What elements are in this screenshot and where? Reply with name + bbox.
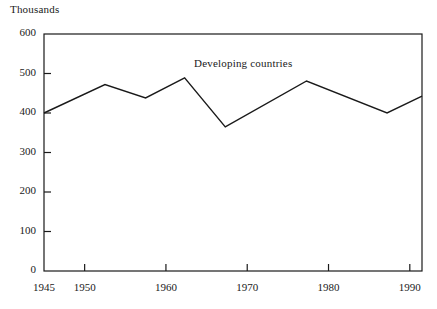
plot-frame bbox=[44, 34, 422, 271]
chart-svg bbox=[0, 0, 437, 309]
data-series-lines bbox=[44, 78, 422, 127]
chart-container: Thousands 0100200300400500600 1945195019… bbox=[0, 0, 437, 309]
axis-tick-marks bbox=[44, 74, 410, 272]
